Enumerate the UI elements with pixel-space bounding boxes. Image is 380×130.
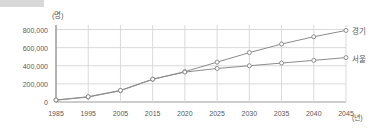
plot-area	[0, 0, 380, 130]
line-chart: (명) (년) 800,000600,000400,000200,0000 19…	[0, 0, 380, 130]
